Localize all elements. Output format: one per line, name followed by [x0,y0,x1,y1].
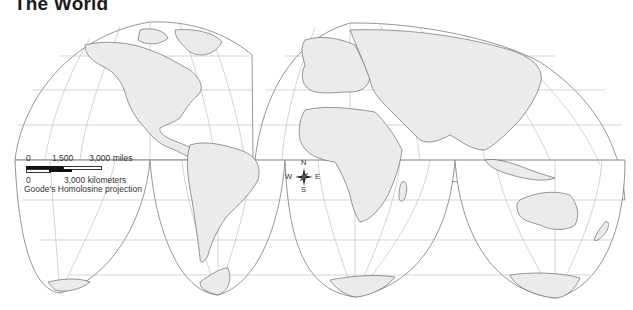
compass-north: N [301,158,306,167]
compass-rose: N S E W [289,162,319,192]
projection-label: Goode's Homolosine projection [24,184,142,194]
scale-bar-km-2 [49,169,72,172]
compass-west: W [285,172,292,181]
antarctica-africa-sector [330,276,395,297]
antarctica-oceania-sector [510,273,580,298]
scale-miles-0: 0 [26,153,31,163]
antarctica-west [48,279,90,291]
compass-south: S [301,185,306,194]
compass-east: E [315,172,320,181]
scale-miles-1500: 1,500 [52,153,73,163]
scale-bar-km [26,169,51,173]
scale-miles-3000: 3,000 miles [89,153,132,163]
